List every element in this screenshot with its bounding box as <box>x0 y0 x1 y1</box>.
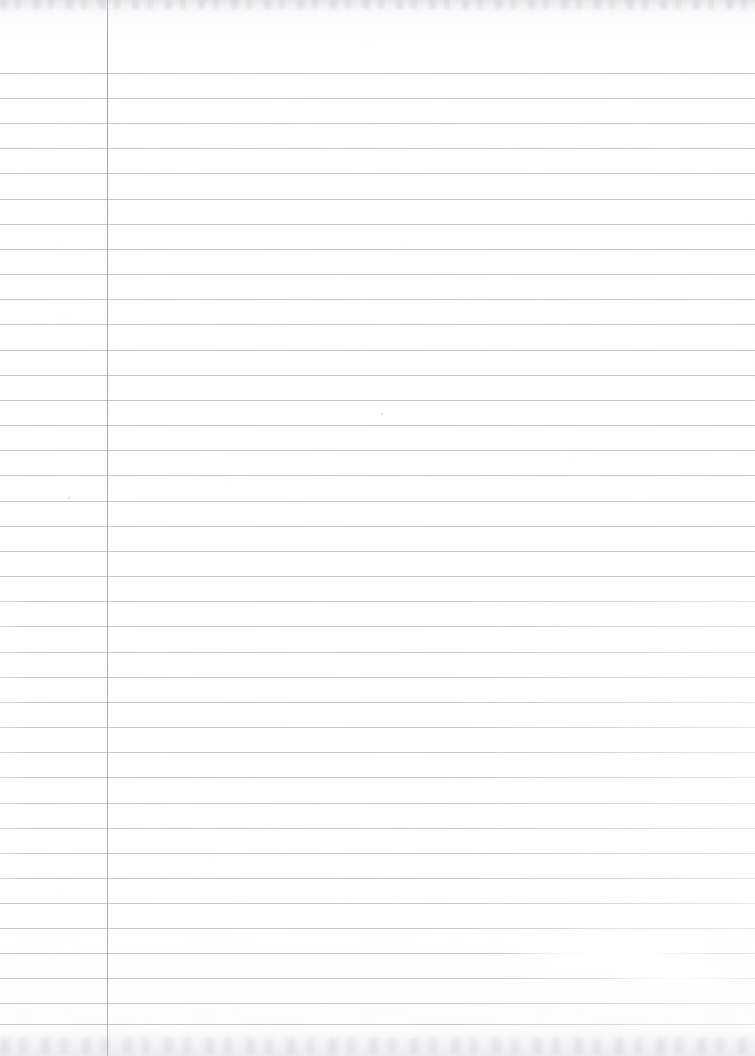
scanned-page <box>0 0 755 1056</box>
writing-area <box>112 0 755 1056</box>
